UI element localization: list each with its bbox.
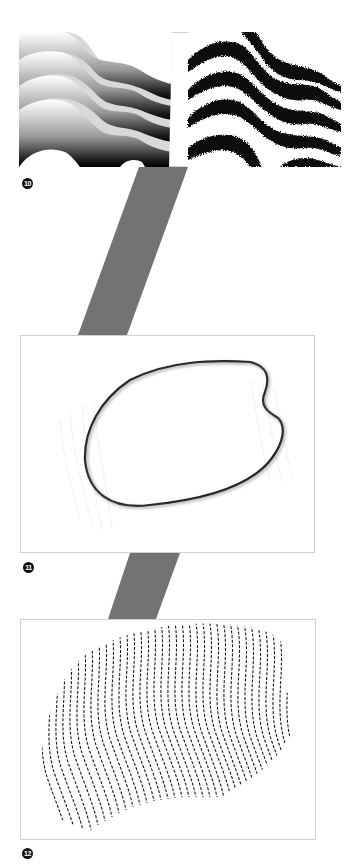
illustration-canvas (0, 0, 347, 865)
figure-11 (21, 336, 315, 553)
figure-11-number-badge: 11 (23, 562, 34, 573)
figure-10 (19, 31, 341, 167)
figure-12-number-badge: 12 (22, 848, 33, 859)
stipple-wave-panel (186, 32, 341, 167)
connector-band-11-12 (108, 553, 180, 619)
figure-12-frame (21, 620, 316, 840)
figure-10-number-badge: 10 (22, 178, 33, 189)
connector-band-10-11 (78, 167, 188, 335)
gradient-wave-panel (19, 31, 172, 167)
figure-12 (21, 612, 316, 845)
